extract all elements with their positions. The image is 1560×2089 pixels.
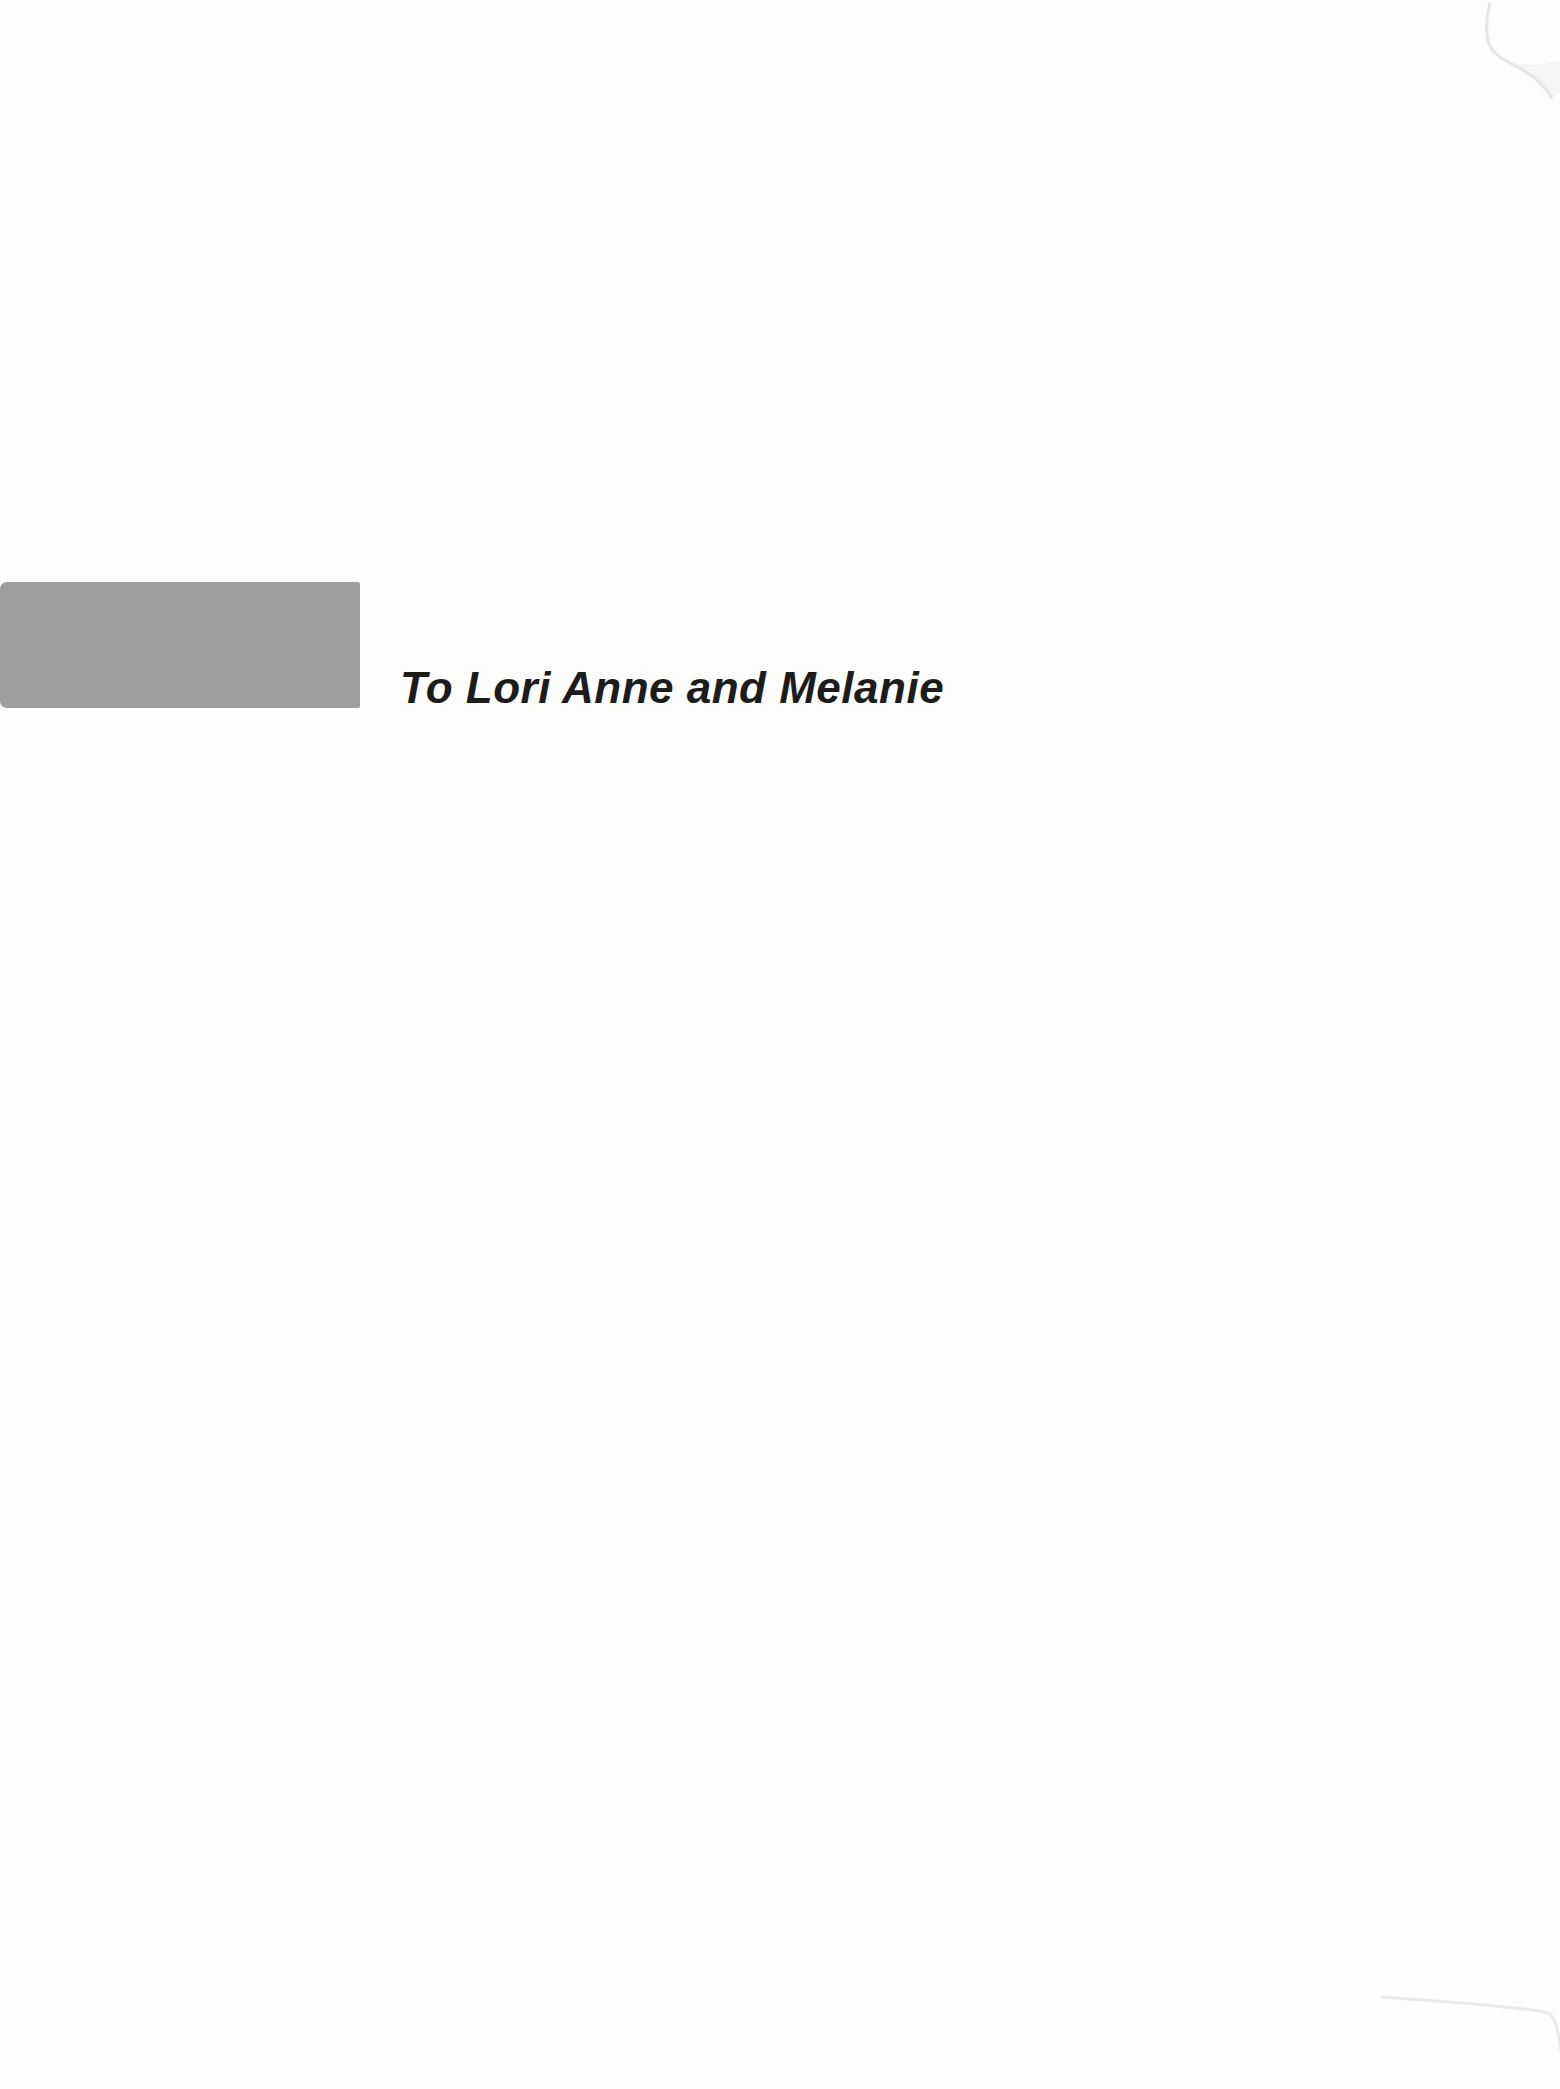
dedication-text: To Lori Anne and Melanie bbox=[400, 666, 944, 710]
book-page: To Lori Anne and Melanie bbox=[0, 0, 1560, 2089]
page-curl-mark-top-right bbox=[1430, 0, 1560, 120]
page-curl-mark-bottom-right bbox=[1370, 1979, 1560, 2089]
chapter-accent-block bbox=[0, 582, 360, 708]
